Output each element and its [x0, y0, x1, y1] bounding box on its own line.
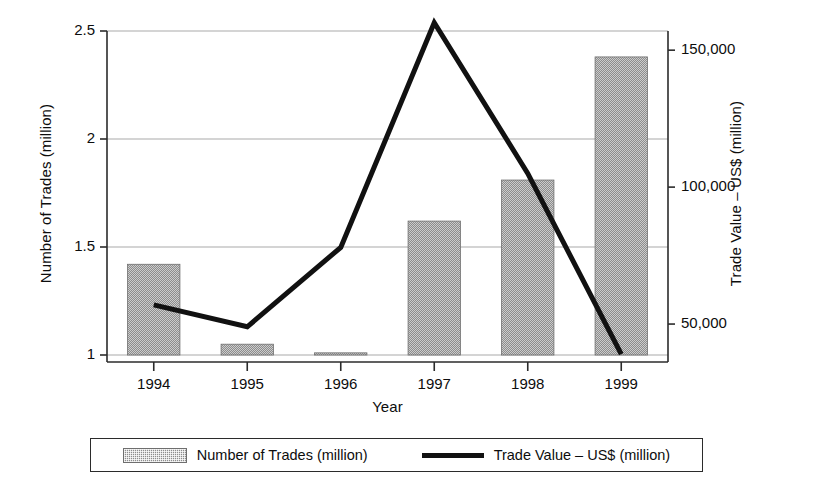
x-tick-1999: 1999 [581, 375, 661, 392]
legend-entry-line: Trade Value – US$ (million) [422, 447, 671, 463]
bar-1996 [315, 353, 367, 355]
y-axis-left-title: Number of Trades (million) [37, 59, 54, 329]
chart-legend: Number of Trades (million) Trade Value –… [90, 438, 703, 472]
y-right-tick-50000: 50,000 [681, 314, 771, 331]
legend-bar-label: Number of Trades (million) [197, 447, 368, 463]
legend-line-label: Trade Value – US$ (million) [494, 447, 671, 463]
y-right-tick-100000: 100,000 [681, 177, 771, 194]
y-left-tick-2: 2 [39, 129, 95, 146]
axis-ticks [100, 31, 675, 371]
bar-1999 [595, 57, 647, 355]
gridlines [107, 31, 668, 355]
x-tick-1998: 1998 [488, 375, 568, 392]
y-right-tick-150000: 150,000 [681, 40, 771, 57]
chart-plot-area [0, 0, 817, 495]
y-left-tick-1: 1 [39, 345, 95, 362]
x-tick-1997: 1997 [394, 375, 474, 392]
bar-1997 [408, 221, 460, 355]
legend-entry-bar: Number of Trades (million) [123, 447, 368, 463]
x-tick-1994: 1994 [114, 375, 194, 392]
x-axis-title: Year [107, 398, 668, 415]
y-left-tick-1.5: 1.5 [39, 237, 95, 254]
x-tick-1995: 1995 [207, 375, 287, 392]
legend-bar-swatch-icon [123, 448, 187, 463]
legend-line-swatch-icon [422, 453, 484, 458]
x-tick-1996: 1996 [301, 375, 381, 392]
bar-1995 [221, 344, 273, 355]
chart-figure: Number of Trades (million) Trade Value –… [0, 0, 817, 495]
y-left-tick-2.5: 2.5 [39, 21, 95, 38]
bar-series [128, 57, 648, 355]
